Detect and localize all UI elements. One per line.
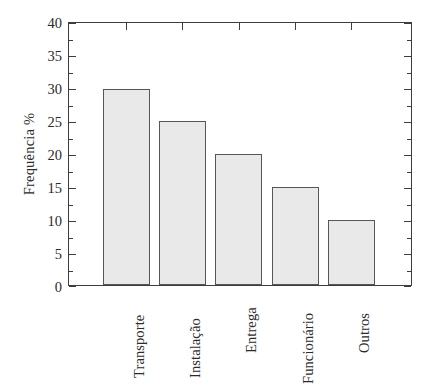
y-right-major-tick-20 bbox=[404, 155, 411, 156]
x-tick-label-transporte: Transporte bbox=[132, 315, 147, 378]
y-major-tick-40 bbox=[69, 23, 76, 24]
y-major-tick-20 bbox=[69, 155, 76, 156]
y-minor-tick-4 bbox=[69, 139, 73, 140]
y-tick-label-0: 0 bbox=[34, 280, 62, 295]
y-right-major-tick-0 bbox=[404, 286, 411, 287]
y-tick-label-20: 20 bbox=[34, 148, 62, 163]
y-tick-label-35: 35 bbox=[34, 49, 62, 64]
y-tick-label-40: 40 bbox=[34, 16, 62, 31]
y-tick-label-25: 25 bbox=[34, 115, 62, 130]
y-right-minor-tick-7 bbox=[407, 238, 411, 239]
y-right-major-tick-40 bbox=[404, 23, 411, 24]
y-major-tick-10 bbox=[69, 221, 76, 222]
bar-instalacao bbox=[159, 121, 206, 285]
plot-area bbox=[68, 22, 412, 286]
y-right-minor-tick-8 bbox=[407, 271, 411, 272]
y-minor-tick-2 bbox=[69, 73, 73, 74]
x-top-tick-entrega bbox=[239, 23, 240, 30]
y-major-tick-0 bbox=[69, 286, 76, 287]
y-major-tick-30 bbox=[69, 89, 76, 90]
y-major-tick-15 bbox=[69, 188, 76, 189]
y-major-tick-35 bbox=[69, 56, 76, 57]
y-minor-tick-3 bbox=[69, 106, 73, 107]
y-right-major-tick-25 bbox=[404, 122, 411, 123]
y-right-minor-tick-6 bbox=[407, 205, 411, 206]
y-right-minor-tick-1 bbox=[407, 40, 411, 41]
frequency-bar-chart: Frequência % 40 35 30 25 20 15 10 5 0 bbox=[0, 0, 433, 385]
x-tick-label-entrega: Entrega bbox=[244, 307, 259, 353]
bar-funcionario bbox=[272, 187, 319, 285]
x-top-tick-funcionario bbox=[295, 23, 296, 30]
y-tick-label-10: 10 bbox=[34, 214, 62, 229]
y-minor-tick-1 bbox=[69, 40, 73, 41]
y-minor-tick-7 bbox=[69, 238, 73, 239]
y-right-major-tick-15 bbox=[404, 188, 411, 189]
y-right-minor-tick-3 bbox=[407, 106, 411, 107]
y-major-tick-5 bbox=[69, 254, 76, 255]
x-top-tick-transporte bbox=[126, 23, 127, 30]
x-tick-label-funcionario: Funcionário bbox=[301, 313, 316, 384]
y-right-major-tick-10 bbox=[404, 221, 411, 222]
y-right-major-tick-30 bbox=[404, 89, 411, 90]
x-top-tick-outros bbox=[351, 23, 352, 30]
y-tick-label-5: 5 bbox=[34, 247, 62, 262]
y-minor-tick-8 bbox=[69, 271, 73, 272]
x-tick-label-instalacao: Instalação bbox=[188, 318, 203, 378]
y-minor-tick-6 bbox=[69, 205, 73, 206]
x-tick-label-outros: Outros bbox=[357, 313, 372, 353]
y-right-major-tick-35 bbox=[404, 56, 411, 57]
bar-transporte bbox=[103, 89, 150, 286]
y-right-major-tick-5 bbox=[404, 254, 411, 255]
y-minor-tick-5 bbox=[69, 172, 73, 173]
x-top-tick-instalacao bbox=[182, 23, 183, 30]
y-tick-label-15: 15 bbox=[34, 181, 62, 196]
bar-outros bbox=[328, 220, 375, 286]
y-major-tick-25 bbox=[69, 122, 76, 123]
bar-entrega bbox=[215, 154, 262, 285]
y-right-minor-tick-2 bbox=[407, 73, 411, 74]
y-right-minor-tick-4 bbox=[407, 139, 411, 140]
y-tick-label-30: 30 bbox=[34, 82, 62, 97]
y-right-minor-tick-5 bbox=[407, 172, 411, 173]
